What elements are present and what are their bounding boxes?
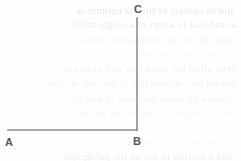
segment-group bbox=[8, 18, 137, 130]
vertex-label-a: A bbox=[5, 137, 13, 148]
vertex-label-b: B bbox=[133, 136, 141, 147]
vertex-label-c: C bbox=[134, 4, 142, 15]
geometry-figure: and in contact of the 1st column isa rea… bbox=[0, 0, 241, 161]
right-angle-svg bbox=[0, 0, 241, 161]
drawing-layer bbox=[0, 0, 241, 161]
